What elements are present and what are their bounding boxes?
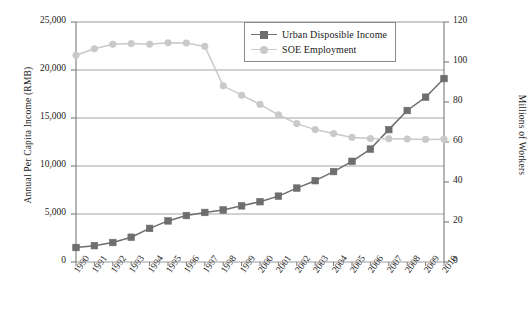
data-point-marker — [220, 207, 227, 214]
data-point-marker — [91, 242, 98, 249]
data-point-marker — [330, 130, 337, 137]
legend-label-soe: SOE Employment — [282, 44, 356, 55]
data-point-marker — [257, 198, 264, 205]
data-point-marker — [220, 83, 227, 90]
data-point-marker — [404, 136, 411, 143]
data-point-marker — [349, 134, 356, 141]
data-point-marker — [441, 75, 448, 82]
data-point-marker — [367, 146, 374, 153]
data-point-marker — [386, 136, 393, 143]
data-point-marker — [91, 46, 98, 53]
data-point-marker — [202, 209, 209, 216]
legend-marker-circle-icon — [251, 44, 277, 55]
data-point-marker — [312, 126, 319, 133]
data-point-marker — [294, 185, 301, 192]
data-point-marker — [238, 203, 245, 210]
data-point-marker — [422, 136, 429, 143]
data-point-marker — [165, 40, 172, 47]
legend-marker-square-icon — [251, 29, 277, 40]
data-point-marker — [367, 135, 374, 142]
data-point-marker — [128, 234, 135, 241]
legend-label-income: Urban Disposible Income — [282, 29, 387, 40]
data-point-marker — [404, 107, 411, 114]
data-point-marker — [110, 41, 117, 48]
data-point-marker — [330, 168, 337, 175]
legend-item-income: Urban Disposible Income — [251, 27, 387, 42]
chart-legend: Urban Disposible Income SOE Employment — [244, 22, 396, 62]
data-point-marker — [146, 41, 153, 48]
data-point-marker — [349, 158, 356, 165]
data-point-marker — [257, 101, 264, 108]
data-point-marker — [128, 40, 135, 47]
data-point-marker — [294, 120, 301, 127]
data-point-marker — [110, 239, 117, 246]
data-point-marker — [238, 92, 245, 99]
data-point-marker — [275, 112, 282, 119]
data-point-marker — [183, 40, 190, 47]
data-point-marker — [73, 244, 80, 251]
data-point-marker — [183, 212, 190, 219]
data-point-marker — [441, 136, 448, 143]
series-layer — [73, 40, 448, 251]
data-point-marker — [202, 43, 209, 50]
data-point-marker — [422, 94, 429, 101]
data-point-marker — [73, 52, 80, 59]
data-point-marker — [275, 193, 282, 200]
data-point-marker — [312, 177, 319, 184]
data-point-marker — [165, 218, 172, 225]
data-point-marker — [386, 126, 393, 133]
data-point-marker — [146, 225, 153, 232]
legend-item-soe: SOE Employment — [251, 42, 387, 57]
